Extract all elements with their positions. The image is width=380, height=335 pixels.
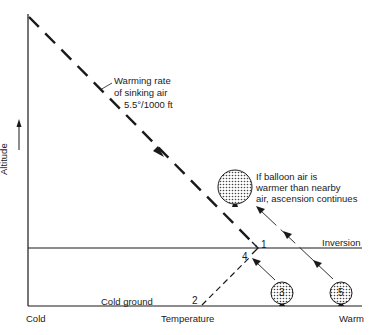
y-axis-label: Altitude [0,143,9,175]
sinking-air-label-line-2: of sinking air [114,87,167,98]
inversion-label: Inversion [322,237,361,248]
balloon-note-line-3: air, ascension continues [256,193,357,204]
x-axis-cold-label: Cold [26,313,46,324]
cold-ground-label: Cold ground [101,296,153,307]
x-axis-label: Temperature [161,313,214,324]
warm-balloon-icon [218,170,252,204]
balloon-3-basket-icon [279,304,285,306]
surface-air-line [202,257,250,305]
altitude-arrowhead-icon [17,119,22,127]
balloon-note-line-1: If balloon air is [256,171,317,182]
sinking-air-rate: 5.5°/1000 ft [124,99,173,110]
balloon-3-path [256,262,275,280]
point-2-label: 2 [192,296,198,306]
x-axis-warm-label: Warm [339,313,364,324]
sinking-air-label-line-1: Warming rate [114,75,171,86]
balloon-3-label: 3 [279,288,285,298]
balloon-3-arrowhead-icon [252,258,261,266]
balloon-5-label: 5 [338,288,344,298]
point-1-label: 1 [261,240,267,250]
warm-balloon-basket-icon [232,204,238,207]
point-4-label: 4 [242,252,248,262]
inversion-diagram [0,0,380,335]
balloon-note-line-2: warmer than nearby [256,182,340,193]
balloon-5-arrowhead-2-icon [283,231,292,239]
sinking-air-line [29,17,256,246]
balloon-5-basket-icon [338,304,344,306]
balloon-5-arrowhead-3-icon [256,206,265,214]
label-leader [100,83,112,90]
